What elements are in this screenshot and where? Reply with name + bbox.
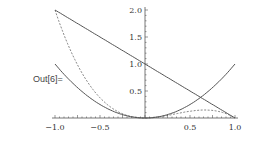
x-tick-label: −1.0 [45,123,64,132]
y-tick-label: 0.5 [129,87,142,96]
x-tick-label: 0.5 [184,123,197,132]
x-tick-label: 1.0 [229,123,242,132]
x-tick-label: −0.5 [90,123,109,132]
y-tick-label: 1.5 [129,33,142,42]
y-tick-label: 2.0 [129,6,142,15]
plot: −1.0−0.50.51.00.51.01.52.0 [0,0,253,144]
